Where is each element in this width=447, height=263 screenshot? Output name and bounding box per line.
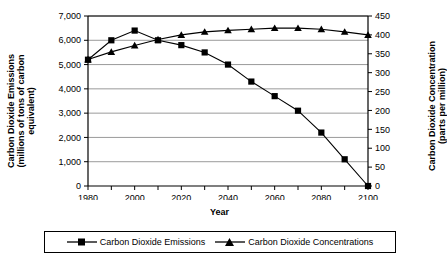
left-axis-tick-label: 1,000 — [58, 157, 81, 167]
left-axis-tick-label: 4,000 — [58, 84, 81, 94]
x-axis-tick-label: 2000 — [125, 193, 145, 200]
data-point-square — [132, 27, 138, 33]
data-point-square — [295, 108, 301, 114]
right-axis-tick-label: 50 — [375, 162, 385, 172]
left-axis-tick-label: 7,000 — [58, 11, 81, 21]
x-axis-tick-label: 2080 — [311, 193, 331, 200]
data-point-square — [225, 61, 231, 67]
right-axis-tick-label: 100 — [375, 143, 390, 153]
plot-area: 01,0002,0003,0004,0005,0006,0007,0000501… — [0, 0, 439, 200]
right-axis-tick-label: 300 — [375, 68, 390, 78]
right-axis-tick-label: 0 — [375, 181, 380, 191]
x-axis-tick-label: 2040 — [218, 193, 238, 200]
right-axis-tick-label: 350 — [375, 49, 390, 59]
legend-item-concentrations: Carbon Dioxide Concentrations — [215, 236, 373, 248]
left-axis-tick-label: 5,000 — [58, 60, 81, 70]
series-line-emissions — [88, 31, 368, 186]
x-axis-tick-label: 2060 — [265, 193, 285, 200]
data-point-square — [202, 49, 208, 55]
x-axis-tick-label: 1980 — [78, 193, 98, 200]
x-axis-tick-label: 2100 — [358, 193, 378, 200]
chart-svg: 01,0002,0003,0004,0005,0006,0007,0000501… — [0, 0, 439, 200]
right-axis-tick-label: 400 — [375, 30, 390, 40]
data-point-square — [178, 42, 184, 48]
left-axis-tick-label: 3,000 — [58, 108, 81, 118]
square-marker-icon — [67, 236, 97, 248]
right-axis-tick-label: 250 — [375, 87, 390, 97]
left-axis-tick-label: 0 — [76, 181, 81, 191]
left-axis-tick-label: 2,000 — [58, 133, 81, 143]
left-axis-tick-label: 6,000 — [58, 35, 81, 45]
x-axis-title: Year — [0, 207, 439, 217]
data-point-square — [342, 156, 348, 162]
data-point-square — [365, 183, 371, 189]
triangle-marker-icon — [215, 236, 245, 248]
right-axis-tick-label: 150 — [375, 125, 390, 135]
data-point-square — [272, 93, 278, 99]
right-axis-tick-label: 450 — [375, 11, 390, 21]
x-axis-tick-label: 2020 — [171, 193, 191, 200]
data-point-square — [248, 78, 254, 84]
legend-label-emissions: Carbon Dioxide Emissions — [100, 237, 206, 247]
data-point-square — [318, 129, 324, 135]
right-axis-tick-label: 200 — [375, 106, 390, 116]
legend-item-emissions: Carbon Dioxide Emissions — [67, 236, 206, 248]
legend-label-concentrations: Carbon Dioxide Concentrations — [248, 237, 373, 247]
data-point-square — [108, 37, 114, 43]
chart-legend: Carbon Dioxide Emissions Carbon Dioxide … — [44, 231, 396, 253]
